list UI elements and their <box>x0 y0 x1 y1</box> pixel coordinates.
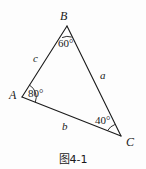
angle-label-b: 60° <box>58 38 73 49</box>
side-label-b: b <box>62 121 68 132</box>
figure-container: A B C c a b 60° 80° 40° 图4-1 <box>0 0 146 169</box>
angle-label-a: 80° <box>28 88 43 99</box>
vertex-label-a: A <box>9 89 16 101</box>
side-a-line <box>67 26 121 136</box>
figure-caption: 图4-1 <box>0 150 146 166</box>
vertex-label-c: C <box>126 136 134 148</box>
side-label-c: c <box>33 53 38 64</box>
side-label-a: a <box>100 70 106 81</box>
triangle-diagram <box>0 0 146 169</box>
vertex-label-b: B <box>60 10 67 22</box>
angle-label-c: 40° <box>95 115 110 126</box>
